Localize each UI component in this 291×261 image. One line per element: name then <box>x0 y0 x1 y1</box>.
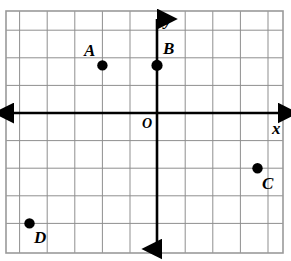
point-D-label: D <box>34 229 46 246</box>
point-B-marker <box>151 60 162 71</box>
y-axis-label: y <box>164 11 172 28</box>
point-A-label: A <box>84 42 95 59</box>
coordinate-plane-figure: A B C D y x O <box>0 0 291 261</box>
x-axis-label: x <box>272 120 281 137</box>
origin-label: O <box>142 117 152 131</box>
point-C-marker <box>252 163 262 173</box>
point-A-marker <box>97 60 107 70</box>
point-B-label: B <box>163 40 174 57</box>
point-C-label: C <box>262 175 273 192</box>
